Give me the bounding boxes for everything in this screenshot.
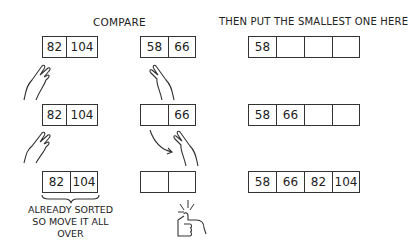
left-array-row2: 82 104 [42, 104, 98, 126]
cell [333, 105, 359, 125]
cell: 104 [333, 172, 359, 192]
cell [141, 172, 169, 192]
cell: 82 [43, 37, 67, 57]
cell: 66 [277, 172, 305, 192]
note-line1: ALREADY SORTED [18, 204, 123, 216]
brace-icon [41, 194, 101, 204]
result-array-row3: 58 66 82 104 [248, 171, 360, 193]
cell: 104 [67, 37, 97, 57]
left-array-row1: 82 104 [42, 36, 98, 58]
cell: 58 [249, 37, 277, 57]
cell: 58 [249, 105, 277, 125]
already-sorted-note: ALREADY SORTED SO MOVE IT ALL OVER [18, 204, 123, 240]
cell: 66 [277, 105, 305, 125]
middle-array-row2: 66 [140, 104, 196, 126]
result-array-row2: 58 66 [248, 104, 360, 126]
cell: 66 [169, 37, 195, 57]
hand-pointing-icon [22, 130, 52, 165]
left-array-row3: 82 104 [42, 171, 98, 193]
middle-array-row1: 58 66 [140, 36, 196, 58]
cell [305, 105, 333, 125]
cell [277, 37, 305, 57]
result-array-row1: 58 [248, 36, 360, 58]
cell [169, 172, 195, 192]
destination-heading: THEN PUT THE SMALLEST ONE HERE [219, 16, 408, 27]
hand-pointing-icon [150, 62, 180, 102]
thumbs-up-icon [170, 198, 210, 238]
hand-pointing-icon [172, 128, 202, 168]
cell [305, 37, 333, 57]
cell: 82 [43, 172, 71, 192]
cell: 104 [67, 105, 97, 125]
middle-array-row3 [140, 171, 196, 193]
cell [333, 37, 359, 57]
note-line2: SO MOVE IT ALL OVER [18, 216, 123, 240]
cell: 58 [141, 37, 169, 57]
cell: 82 [43, 105, 67, 125]
cell: 66 [169, 105, 195, 125]
cell: 82 [305, 172, 333, 192]
compare-heading: COMPARE [93, 16, 146, 28]
cell [141, 105, 169, 125]
cell: 58 [249, 172, 277, 192]
hand-pointing-icon [22, 62, 52, 102]
cell: 104 [71, 172, 97, 192]
